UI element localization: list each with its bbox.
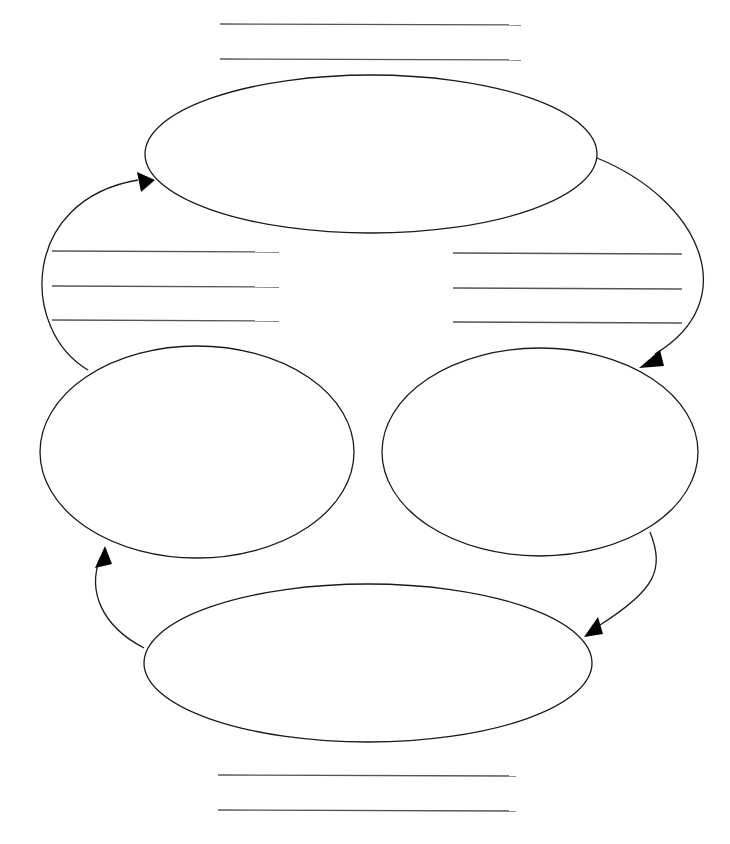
arrow-top-to-right bbox=[597, 158, 703, 368]
node-left bbox=[40, 346, 354, 558]
writing-line[interactable] bbox=[218, 775, 516, 776]
node-top bbox=[145, 75, 597, 233]
writing-line[interactable] bbox=[220, 24, 521, 25]
arrow-curve bbox=[42, 180, 138, 370]
right-lines bbox=[453, 253, 682, 323]
arrow-bottom-to-left bbox=[95, 546, 144, 648]
writing-line[interactable] bbox=[52, 286, 279, 287]
cycle-diagram bbox=[0, 0, 730, 844]
left-lines bbox=[52, 251, 279, 321]
writing-line[interactable] bbox=[52, 251, 279, 252]
arrowhead-icon bbox=[95, 546, 112, 568]
top-ellipse[interactable] bbox=[145, 75, 597, 233]
writing-line[interactable] bbox=[453, 288, 682, 289]
writing-line[interactable] bbox=[453, 322, 682, 323]
writing-line[interactable] bbox=[453, 253, 682, 254]
right-ellipse[interactable] bbox=[382, 348, 698, 556]
arrow-left-to-top bbox=[42, 172, 155, 370]
arrowhead-icon bbox=[639, 350, 664, 368]
arrow-curve bbox=[597, 158, 703, 354]
node-bottom bbox=[144, 584, 592, 742]
bottom-ellipse[interactable] bbox=[144, 584, 592, 742]
title-lines bbox=[220, 24, 521, 60]
writing-line[interactable] bbox=[52, 320, 279, 321]
left-ellipse[interactable] bbox=[40, 346, 354, 558]
writing-line[interactable] bbox=[218, 810, 516, 811]
arrow-curve bbox=[96, 558, 144, 648]
footer-lines bbox=[218, 775, 516, 811]
writing-line[interactable] bbox=[220, 59, 521, 60]
arrowhead-icon bbox=[584, 617, 603, 637]
node-right bbox=[382, 348, 698, 556]
